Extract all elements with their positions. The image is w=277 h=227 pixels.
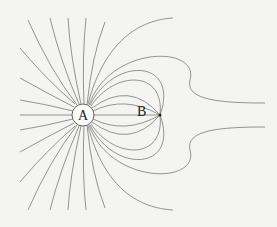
label-a: A xyxy=(78,108,89,123)
label-b: B xyxy=(137,104,146,119)
field-lines-right xyxy=(88,18,265,210)
point-b-dot xyxy=(159,114,162,117)
field-line-diagram: A B xyxy=(0,0,277,227)
